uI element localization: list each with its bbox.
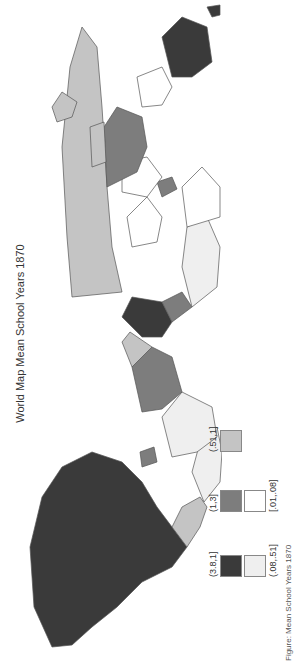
region-mongolia: [90, 122, 106, 167]
map-figure: World Map Mean School Years 1870: [0, 0, 296, 667]
region-middle-east: [127, 197, 162, 247]
figure-caption: Figure: Mean School Years 1870: [284, 545, 293, 661]
legend-swatch-4: [244, 490, 266, 512]
legend-label-2: (.51,1]: [208, 426, 218, 452]
legend-swatch-1: [220, 490, 242, 512]
region-southeast-asia: [137, 67, 172, 107]
legend-label-3: (.08,.51]: [268, 544, 278, 577]
region-north-america: [30, 452, 187, 647]
legend-swatch-3: [244, 555, 266, 577]
legend-label-1: (1,3]: [208, 494, 218, 512]
legend-swatch-0: [220, 555, 242, 577]
legend-label-4: [.01,.08]: [268, 479, 278, 512]
region-venezuela: [140, 447, 157, 467]
legend-label-0: (3.8,1]: [208, 551, 218, 577]
legend-swatch-2: [220, 430, 242, 452]
map-legend: (3.8,1] (.08,.51] (1,3] [.01,.08] (.51,1…: [190, 0, 290, 667]
